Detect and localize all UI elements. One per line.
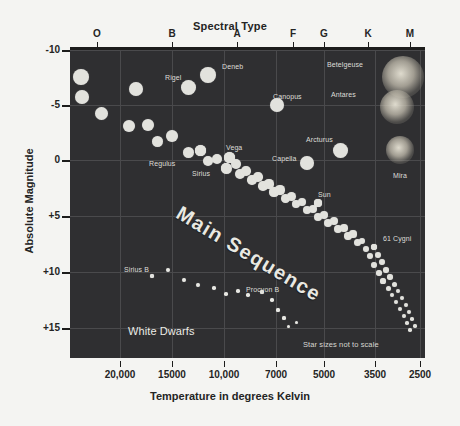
x-tick-10,000 bbox=[224, 361, 225, 367]
main-sequence-point bbox=[386, 286, 391, 291]
gridline-vertical bbox=[420, 50, 421, 358]
main-sequence-point bbox=[405, 321, 409, 325]
white-dwarf-point bbox=[287, 325, 290, 328]
supergiant-point bbox=[166, 130, 178, 142]
star-label-canopus: Canopus bbox=[273, 93, 302, 100]
main-sequence-point bbox=[413, 324, 416, 327]
supergiant-point bbox=[152, 136, 163, 147]
main-sequence-point bbox=[394, 300, 398, 304]
star-point-deneb bbox=[200, 67, 216, 83]
white-dwarf-point bbox=[246, 293, 249, 296]
gridline-vertical bbox=[172, 50, 173, 358]
star-label-sirius: Sirius bbox=[192, 170, 210, 177]
x-tick-15000 bbox=[172, 361, 173, 367]
white-dwarf-point bbox=[166, 268, 170, 272]
plot-area: Main Sequence RigelDenebBetelgeuseAntare… bbox=[70, 50, 425, 358]
supergiant-point bbox=[123, 120, 135, 132]
white-dwarf-point bbox=[270, 298, 273, 301]
x-tick-label-10,000: 10,000 bbox=[197, 369, 251, 380]
white-dwarf-point bbox=[276, 308, 279, 311]
main-sequence-point bbox=[363, 246, 370, 253]
x-tick-20,000 bbox=[120, 361, 121, 367]
main-sequence-point bbox=[371, 262, 377, 268]
gridline-horizontal bbox=[70, 328, 425, 329]
main-sequence-point bbox=[383, 267, 389, 273]
star-label-mira: Mira bbox=[393, 172, 407, 179]
supergiant-point bbox=[95, 107, 108, 120]
spectral-type-B: B bbox=[159, 28, 185, 39]
gridline-horizontal bbox=[70, 50, 425, 51]
star-point-rigel bbox=[181, 80, 196, 95]
x-tick-7000 bbox=[276, 361, 277, 367]
star-point-arcturus bbox=[333, 143, 348, 158]
star-point-capella bbox=[300, 156, 314, 170]
main-sequence-point bbox=[349, 230, 356, 237]
gridline-vertical bbox=[375, 50, 376, 358]
main-sequence-point bbox=[404, 303, 408, 307]
white-dwarf-point bbox=[182, 278, 186, 282]
white-dwarfs-label: White Dwarfs bbox=[128, 325, 195, 337]
y-tick-label--10: -10 bbox=[24, 44, 60, 55]
scale-disclaimer-note: Star sizes not to scale bbox=[303, 340, 379, 349]
star-point-sirius bbox=[221, 163, 232, 174]
main-sequence-point bbox=[387, 274, 392, 279]
main-sequence-point bbox=[376, 270, 381, 275]
y-axis-title: Absolute Magnitude bbox=[23, 106, 35, 296]
main-sequence-point bbox=[379, 259, 385, 265]
gridline-vertical bbox=[324, 50, 325, 358]
spectral-type-M: M bbox=[397, 28, 423, 39]
gridline-vertical bbox=[224, 50, 225, 358]
x-tick-label-15000: 15000 bbox=[145, 369, 199, 380]
x-tick-label-2500: 2500 bbox=[393, 369, 447, 380]
star-label-deneb: Deneb bbox=[222, 63, 243, 70]
main-sequence-point bbox=[212, 154, 222, 164]
white-dwarf-point bbox=[282, 316, 285, 319]
main-sequence-point bbox=[375, 252, 381, 258]
star-label-rigel: Rigel bbox=[165, 74, 181, 81]
star-label-procyon-b: Procyon B bbox=[246, 286, 279, 293]
star-point-regulus bbox=[195, 145, 206, 156]
white-dwarf-point bbox=[212, 286, 216, 290]
x-tick-2500 bbox=[420, 361, 421, 367]
x-tick-3500 bbox=[375, 361, 376, 367]
main-sequence-point bbox=[392, 282, 397, 287]
spectral-type-O: O bbox=[84, 28, 110, 39]
spectral-type-A: A bbox=[224, 28, 250, 39]
star-point-canopus bbox=[270, 98, 284, 112]
star-label-sun: Sun bbox=[318, 191, 331, 198]
spectral-type-K: K bbox=[355, 28, 381, 39]
main-sequence-point bbox=[367, 253, 373, 259]
supergiant-point bbox=[142, 119, 154, 131]
main-sequence-point bbox=[275, 185, 284, 194]
star-point-sun bbox=[314, 199, 322, 207]
chart-bottom-title: Temperature in degrees Kelvin bbox=[0, 390, 460, 402]
main-sequence-point bbox=[390, 293, 395, 298]
star-label-arcturus: Arcturus bbox=[306, 136, 333, 143]
white-dwarf-point bbox=[224, 292, 228, 296]
x-tick-label-5000: 5000 bbox=[297, 369, 351, 380]
star-label-regulus: Regulus bbox=[149, 160, 175, 167]
star-point-vega bbox=[224, 152, 235, 163]
supergiant-point bbox=[73, 69, 89, 85]
star-label-vega: Vega bbox=[226, 144, 242, 151]
star-label-betelgeuse: Betelgeuse bbox=[327, 61, 363, 68]
white-dwarf-point bbox=[196, 283, 200, 287]
gridline-horizontal bbox=[70, 216, 425, 217]
main-sequence-point bbox=[400, 296, 404, 300]
y-tick-label-+15: +15 bbox=[24, 322, 60, 333]
main-sequence-point bbox=[320, 211, 328, 219]
gridline-vertical bbox=[120, 50, 121, 358]
x-tick-label-7000: 7000 bbox=[249, 369, 303, 380]
star-glow-antares bbox=[380, 90, 414, 124]
spectral-type-F: F bbox=[280, 28, 306, 39]
star-point-sirius-b bbox=[150, 274, 154, 278]
x-tick-5000 bbox=[324, 361, 325, 367]
main-sequence-point bbox=[183, 147, 194, 158]
main-sequence-point bbox=[408, 328, 411, 331]
hr-diagram-figure: Spectral Type OBAFGKM -10-50+5+10+15 Abs… bbox=[0, 0, 460, 426]
main-sequence-point bbox=[340, 224, 348, 232]
x-tick-label-20,000: 20,000 bbox=[93, 369, 147, 380]
supergiant-point bbox=[75, 90, 89, 104]
main-sequence-point bbox=[330, 217, 338, 225]
gridline-horizontal bbox=[70, 105, 425, 106]
